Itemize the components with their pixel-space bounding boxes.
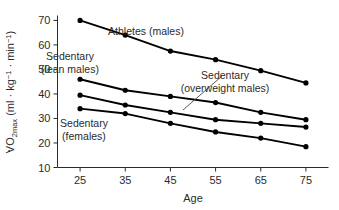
x-axis-title: Age xyxy=(183,192,203,204)
data-point xyxy=(168,94,173,99)
data-point xyxy=(77,18,82,23)
y-axis-ticks xyxy=(54,20,58,167)
x-tick-label: 35 xyxy=(119,174,131,186)
data-point xyxy=(303,144,308,149)
data-point xyxy=(258,68,263,73)
data-point xyxy=(213,100,218,105)
data-point xyxy=(123,88,128,93)
data-point xyxy=(258,110,263,115)
data-point xyxy=(303,117,308,122)
y-axis-title-subscript: 2max xyxy=(10,119,19,138)
data-point xyxy=(168,110,173,115)
svg-text:VO2max (ml · kg−1 · min−1): VO2max (ml · kg−1 · min−1) xyxy=(4,31,19,153)
athletes-label: Athletes (males) xyxy=(108,25,184,37)
y-tick-label: 40 xyxy=(38,88,50,100)
x-tick-label: 55 xyxy=(209,174,221,186)
x-axis-tick-labels: 253545556575 xyxy=(74,174,312,186)
data-point xyxy=(123,111,128,116)
data-point xyxy=(77,106,82,111)
y-axis-title-exp1: −1 xyxy=(4,71,13,80)
data-point xyxy=(123,102,128,107)
overweight-males-label-line1: Sedentary xyxy=(201,69,250,81)
y-tick-label: 10 xyxy=(38,162,50,174)
series-sedentary-overweight-males xyxy=(77,93,308,130)
data-point xyxy=(213,117,218,122)
y-axis-tick-labels: 10203040506070 xyxy=(38,14,50,173)
data-point xyxy=(303,124,308,129)
x-tick-label: 25 xyxy=(74,174,86,186)
data-point xyxy=(303,80,308,85)
data-point xyxy=(77,93,82,98)
data-point xyxy=(77,77,82,82)
series-sedentary-females xyxy=(77,106,308,149)
data-point xyxy=(168,48,173,53)
data-point xyxy=(258,121,263,126)
x-tick-label: 65 xyxy=(255,174,267,186)
lean-males-label-line2: (lean males) xyxy=(41,63,99,75)
data-point xyxy=(213,129,218,134)
vo2max-line-chart: 10203040506070 253545556575 Athletes (ma… xyxy=(0,0,339,210)
x-tick-label: 45 xyxy=(164,174,176,186)
y-axis-title-units: (ml · kg xyxy=(4,79,16,119)
v-dot-accent xyxy=(8,150,10,152)
lean-males-label-line1: Sedentary xyxy=(46,50,95,62)
females-label-line2: (females) xyxy=(62,130,106,142)
y-tick-label: 20 xyxy=(38,137,50,149)
y-tick-label: 30 xyxy=(38,112,50,124)
overweight-males-label-line2: (overweight males) xyxy=(181,82,270,94)
y-axis-title-exp2: −1 xyxy=(4,35,13,44)
data-point xyxy=(213,57,218,62)
females-label-line1: Sedentary xyxy=(60,117,109,129)
x-tick-label: 75 xyxy=(300,174,312,186)
data-point xyxy=(258,135,263,140)
y-axis-title-close: ) xyxy=(4,31,16,35)
chart-figure: 10203040506070 253545556575 Athletes (ma… xyxy=(0,0,339,210)
y-axis-title-mid: · min xyxy=(4,43,16,71)
data-point xyxy=(168,121,173,126)
y-tick-label: 70 xyxy=(38,14,50,26)
y-axis-title: VO2max (ml · kg−1 · min−1) xyxy=(4,31,19,153)
x-axis-ticks xyxy=(80,168,306,172)
series-annotations: Athletes (males)Sedentary(lean males)Sed… xyxy=(41,25,269,142)
